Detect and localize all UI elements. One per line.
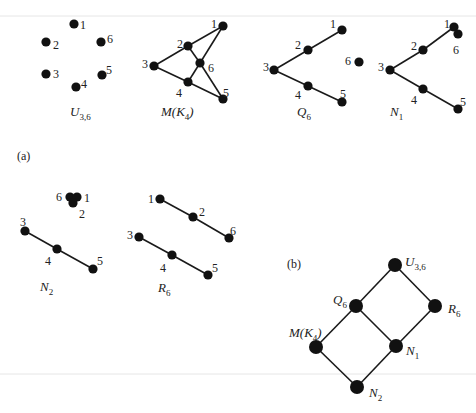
- lattice-node-label: M(K4): [288, 325, 322, 343]
- point-label: 1: [211, 17, 217, 31]
- point-label: 3: [127, 228, 133, 242]
- lattice-edge: [316, 347, 357, 387]
- matroid-n1: 162345N1: [378, 17, 466, 122]
- point-label: 4: [411, 93, 417, 107]
- matroid-name: U3,6: [70, 104, 91, 122]
- point-label: 5: [340, 87, 346, 101]
- line-segment: [390, 50, 423, 70]
- line-segment: [172, 255, 208, 275]
- lattice-edge: [357, 346, 396, 387]
- matroid-q6: 123456Q6: [263, 17, 364, 122]
- point-1: [69, 19, 78, 28]
- point-4: [71, 82, 80, 91]
- matroid-name: M(K4): [160, 104, 194, 122]
- point-label: 2: [411, 39, 417, 53]
- line-segment: [308, 86, 342, 102]
- matroid-figure: (a) (b) 126354U3,6126345M(K4)123456Q6162…: [0, 0, 476, 413]
- lattice-node-n2: [350, 380, 364, 394]
- line-segment: [25, 231, 57, 249]
- point-label: 2: [199, 205, 205, 219]
- matroid-name: N1: [389, 104, 403, 122]
- point-label: 4: [160, 261, 166, 275]
- point-label: 1: [444, 17, 450, 31]
- point-label: 5: [460, 95, 466, 109]
- line-segment: [154, 66, 188, 82]
- point-3: [269, 65, 278, 74]
- lattice-diagram: U3,6Q6R6M(K4)N1N2: [288, 254, 461, 403]
- point-4: [183, 77, 192, 86]
- point-label: 6: [453, 43, 459, 57]
- lattice-node-label: U3,6: [405, 254, 426, 272]
- line-segment: [423, 89, 458, 109]
- point-label: 1: [148, 192, 154, 206]
- point-label: 2: [53, 38, 59, 52]
- point-6: [195, 58, 204, 67]
- point-2: [188, 212, 197, 221]
- point-label: 2: [295, 38, 301, 52]
- point-label: 6: [56, 190, 62, 204]
- matroid-name: Q6: [297, 104, 311, 122]
- point-1: [218, 21, 227, 30]
- point-6: [96, 37, 105, 46]
- point-6: [354, 57, 363, 66]
- lattice-node-u36: [388, 258, 402, 272]
- point-label: 4: [45, 254, 51, 268]
- point-1: [155, 194, 164, 203]
- point-label: 3: [142, 57, 148, 71]
- diagram-canvas: (a) (b) 126354U3,6126345M(K4)123456Q6162…: [0, 0, 476, 413]
- point-label: 4: [81, 77, 87, 91]
- matroid-mk4: 126345M(K4): [142, 17, 229, 122]
- point-label: 3: [263, 60, 269, 74]
- lattice-node-n1: [389, 339, 403, 353]
- line-segment: [390, 70, 423, 89]
- line-segment: [57, 249, 93, 269]
- point-2: [303, 45, 312, 54]
- line-segment: [193, 217, 229, 238]
- point-4: [52, 244, 61, 253]
- matroid-n2: 612345N2: [20, 190, 103, 297]
- point-2: [418, 45, 427, 54]
- point-label: 3: [20, 215, 26, 229]
- point-4: [303, 81, 312, 90]
- lattice-edge: [356, 306, 396, 346]
- matroid-u36: 126354U3,6: [41, 18, 113, 122]
- line-segment: [200, 26, 223, 63]
- point-3: [149, 61, 158, 70]
- line-segment: [308, 30, 342, 50]
- point-label: 4: [176, 86, 182, 100]
- matroid-drawings: 126354U3,6126345M(K4)123456Q6162345N1612…: [20, 17, 466, 298]
- point-label: 5: [106, 63, 112, 77]
- point-label: 5: [223, 86, 229, 100]
- point-2: [183, 41, 192, 50]
- line-segment: [274, 50, 308, 70]
- point-label: 1: [80, 18, 86, 32]
- line-segment: [188, 26, 223, 46]
- point-2: [41, 37, 50, 46]
- part-b-label: (b): [287, 257, 301, 271]
- matroid-name: R6: [157, 280, 171, 298]
- point-label: 5: [97, 254, 103, 268]
- point-label: 2: [79, 207, 85, 221]
- point-2: [68, 198, 77, 207]
- point-label: 6: [345, 54, 351, 68]
- point-1: [337, 25, 346, 34]
- lattice-node-label: N2: [368, 385, 382, 403]
- lattice-node-label: R6: [447, 301, 461, 319]
- line-segment: [274, 70, 308, 86]
- lattice-node-r6: [428, 299, 442, 313]
- point-label: 6: [107, 32, 113, 46]
- lattice-node-label: Q6: [333, 292, 347, 310]
- point-4: [167, 250, 176, 259]
- point-4: [418, 84, 427, 93]
- lattice-edge: [396, 306, 435, 346]
- point-label: 1: [84, 191, 90, 205]
- lattice-node-label: N1: [405, 343, 419, 361]
- point-label: 3: [53, 67, 59, 81]
- point-3: [134, 232, 143, 241]
- lattice-edge: [356, 265, 395, 306]
- matroid-r6: 126345R6: [127, 192, 236, 298]
- point-6: [453, 29, 462, 38]
- line-segment: [160, 199, 193, 217]
- point-label: 6: [208, 61, 214, 75]
- point-label: 4: [295, 88, 301, 102]
